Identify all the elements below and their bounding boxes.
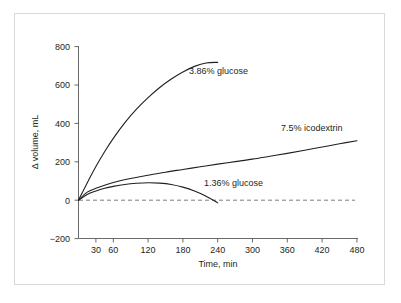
y-tick-label-200: 200 — [55, 157, 70, 167]
x-tick-label-180: 180 — [175, 245, 190, 255]
x-tick-label-480: 480 — [349, 245, 364, 255]
y-tick-label-400: 400 — [55, 119, 70, 129]
chart-plot-area: 800 600 400 200 0 −200 30 60 120 180 240… — [0, 0, 401, 303]
y-tick-label-800: 800 — [55, 42, 70, 52]
y-tick-label-minus200: −200 — [50, 234, 70, 244]
x-tick-label-420: 420 — [315, 245, 330, 255]
x-axis-title: Time, min — [198, 259, 237, 269]
x-tick-label-360: 360 — [280, 245, 295, 255]
series-label-7-5-icodextrin: 7.5% icodextrin — [281, 123, 343, 133]
x-tick-label-240: 240 — [210, 245, 225, 255]
y-axis-title: Δ volume, mL — [30, 115, 40, 170]
series-label-3-86-glucose: 3.86% glucose — [189, 66, 248, 76]
y-tick-label-600: 600 — [55, 80, 70, 90]
x-tick-label-120: 120 — [141, 245, 156, 255]
series-line-1-36-glucose — [79, 183, 218, 203]
chart-page: 800 600 400 200 0 −200 30 60 120 180 240… — [0, 0, 401, 303]
x-tick-label-30: 30 — [91, 245, 101, 255]
x-tick-label-300: 300 — [245, 245, 260, 255]
y-tick-label-0: 0 — [65, 196, 70, 206]
x-tick-label-60: 60 — [108, 245, 118, 255]
series-line-3-86-glucose — [79, 62, 218, 200]
series-line-7-5-icodextrin — [79, 141, 357, 201]
series-label-1-36-glucose: 1.36% glucose — [204, 178, 263, 188]
